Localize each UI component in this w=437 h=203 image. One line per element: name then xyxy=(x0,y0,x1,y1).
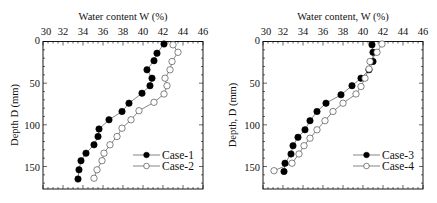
x-tick-label: 42 xyxy=(158,26,169,37)
y-axis-label: Depth, D (mm) xyxy=(227,82,239,147)
legend-marker xyxy=(364,152,370,158)
data-point-case-4 xyxy=(314,127,320,133)
data-point-case-3 xyxy=(323,100,329,106)
data-point-case-2 xyxy=(101,150,107,156)
data-point-case-2 xyxy=(99,158,105,164)
y-tick-label: 100 xyxy=(24,120,40,131)
y-tick-label: 50 xyxy=(250,78,261,89)
data-point-case-4 xyxy=(340,100,346,106)
data-point-case-1 xyxy=(151,58,157,64)
x-tick-label: 46 xyxy=(198,26,209,37)
x-tick-label: 32 xyxy=(58,26,69,37)
data-point-case-4 xyxy=(301,143,307,149)
y-axis-label: Depth D (mm) xyxy=(9,84,21,146)
data-point-case-4 xyxy=(362,75,368,81)
data-point-case-2 xyxy=(91,175,97,181)
data-point-case-1 xyxy=(149,75,155,81)
x-tick-label: 40 xyxy=(358,26,369,37)
x-tick-label: 42 xyxy=(378,26,389,37)
data-point-case-2 xyxy=(151,99,157,105)
data-point-case-1 xyxy=(91,142,97,148)
chart-title: Water content W (%) xyxy=(79,11,168,23)
data-point-case-2 xyxy=(128,117,134,123)
data-point-case-2 xyxy=(136,108,142,114)
data-point-case-2 xyxy=(119,125,125,131)
data-point-case-3 xyxy=(338,92,344,98)
data-point-case-2 xyxy=(170,42,176,48)
data-point-case-4 xyxy=(366,66,372,72)
data-point-case-2 xyxy=(94,167,100,173)
data-point-case-1 xyxy=(139,90,145,96)
data-point-case-1 xyxy=(96,126,102,132)
chart-left: Water content W (%) Depth D (mm) 3032343… xyxy=(9,11,208,189)
chart-title: Water content, W (%) xyxy=(297,11,389,23)
legend-item: Case-2 xyxy=(133,160,194,172)
data-point-case-4 xyxy=(353,91,359,97)
data-point-case-1 xyxy=(154,50,160,56)
data-point-case-1 xyxy=(161,41,167,47)
x-tick-label: 30 xyxy=(41,26,52,37)
data-point-case-3 xyxy=(369,42,375,48)
data-point-case-4 xyxy=(367,58,373,64)
data-point-case-1 xyxy=(106,117,112,123)
y-tick-label: 50 xyxy=(30,78,41,89)
data-point-case-1 xyxy=(144,67,150,73)
data-point-case-3 xyxy=(314,108,320,114)
legend-label: Case-4 xyxy=(382,160,414,172)
data-point-case-1 xyxy=(147,83,153,89)
data-point-case-3 xyxy=(307,118,313,124)
data-point-case-3 xyxy=(295,134,301,140)
y-tick-label: 0 xyxy=(35,35,40,46)
data-point-case-4 xyxy=(322,118,328,124)
x-tick-label: 34 xyxy=(298,26,309,37)
data-point-case-2 xyxy=(169,58,175,64)
x-tick-label: 36 xyxy=(318,26,329,37)
x-tick-label: 38 xyxy=(338,26,349,37)
x-tick-label: 36 xyxy=(98,26,109,37)
x-tick-label: 44 xyxy=(398,26,409,37)
data-point-case-2 xyxy=(164,83,170,89)
data-point-case-1 xyxy=(78,158,84,164)
data-point-case-4 xyxy=(379,41,385,47)
x-tick-labels: 303234363840424446 xyxy=(261,26,429,37)
data-point-case-3 xyxy=(290,143,296,149)
data-point-case-4 xyxy=(374,49,380,55)
legend-marker xyxy=(364,163,370,169)
y-tick-label: 100 xyxy=(244,120,260,131)
x-tick-label: 46 xyxy=(418,26,429,37)
y-tick-labels: 050100150 xyxy=(244,35,260,173)
data-point-case-1 xyxy=(83,150,89,156)
data-point-case-1 xyxy=(75,176,81,182)
data-point-case-3 xyxy=(288,151,294,157)
legend-item: Case-4 xyxy=(353,160,414,172)
legend: Case-3Case-4 xyxy=(353,149,414,172)
data-point-case-1 xyxy=(126,100,132,106)
legend-label: Case-2 xyxy=(162,160,194,172)
data-point-case-2 xyxy=(161,91,167,97)
data-point-case-2 xyxy=(167,67,173,73)
data-point-case-1 xyxy=(119,108,125,114)
data-point-case-2 xyxy=(162,75,168,81)
data-point-case-4 xyxy=(271,168,277,174)
y-tick-labels: 050100150 xyxy=(24,35,40,173)
data-point-case-3 xyxy=(349,83,355,89)
x-tick-label: 44 xyxy=(178,26,189,37)
data-point-case-4 xyxy=(330,108,336,114)
x-tick-label: 34 xyxy=(78,26,89,37)
y-tick-label: 150 xyxy=(244,162,260,173)
data-point-case-2 xyxy=(107,142,113,148)
legend-marker xyxy=(144,152,150,158)
figure: Water content W (%) Depth D (mm) 3032343… xyxy=(0,0,437,203)
data-point-case-1 xyxy=(76,167,82,173)
data-point-case-4 xyxy=(358,83,364,89)
data-point-case-2 xyxy=(114,133,120,139)
data-point-case-4 xyxy=(307,135,313,141)
x-tick-label: 32 xyxy=(278,26,289,37)
y-tick-label: 0 xyxy=(255,35,260,46)
y-tick-label: 150 xyxy=(24,162,40,173)
x-tick-label: 38 xyxy=(118,26,129,37)
data-point-case-3 xyxy=(302,127,308,133)
data-point-case-2 xyxy=(175,49,181,55)
legend-marker xyxy=(144,163,150,169)
data-point-case-4 xyxy=(289,160,295,166)
